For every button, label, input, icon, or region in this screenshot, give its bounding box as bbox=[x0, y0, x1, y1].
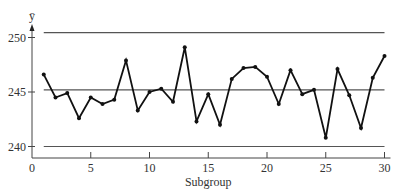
data-point bbox=[183, 45, 187, 49]
data-point bbox=[206, 92, 210, 96]
x-tick-label: 20 bbox=[261, 161, 273, 175]
data-point bbox=[136, 109, 140, 113]
data-point bbox=[300, 92, 304, 96]
y-axis-title: ȳ bbox=[29, 9, 35, 23]
data-point bbox=[42, 73, 46, 77]
data-point bbox=[54, 95, 58, 99]
x-tick-label: 30 bbox=[379, 161, 391, 175]
data-point bbox=[65, 91, 69, 95]
data-point bbox=[242, 66, 246, 70]
data-point bbox=[230, 77, 234, 81]
x-tick-label: 15 bbox=[202, 161, 214, 175]
data-point bbox=[218, 123, 222, 127]
y-axis-arrow-icon bbox=[30, 24, 35, 31]
data-point bbox=[89, 95, 93, 99]
y-tick-label: 250 bbox=[8, 31, 26, 45]
x-tick-label: 5 bbox=[88, 161, 94, 175]
y-tick-label: 240 bbox=[8, 140, 26, 154]
data-point bbox=[347, 93, 351, 97]
data-point bbox=[124, 58, 128, 62]
data-point bbox=[253, 65, 257, 69]
data-point bbox=[101, 102, 105, 106]
data-point bbox=[371, 76, 375, 80]
x-axis-title: Subgroup bbox=[185, 175, 232, 189]
control-chart: 240245250051015202530Subgroupȳ bbox=[0, 0, 399, 195]
data-point bbox=[195, 119, 199, 123]
data-point bbox=[171, 100, 175, 104]
data-point bbox=[289, 68, 293, 72]
x-tick-label: 10 bbox=[144, 161, 156, 175]
axes bbox=[28, 24, 391, 158]
data-point bbox=[159, 87, 163, 91]
x-tick-label: 25 bbox=[320, 161, 332, 175]
data-point bbox=[336, 67, 340, 71]
y-tick-label: 245 bbox=[8, 85, 26, 99]
data-point bbox=[277, 102, 281, 106]
data-point bbox=[77, 116, 81, 120]
data-point bbox=[383, 54, 387, 58]
x-tick-label: 0 bbox=[29, 161, 35, 175]
data-point bbox=[265, 75, 269, 79]
data-point bbox=[148, 90, 152, 94]
data-point bbox=[112, 98, 116, 102]
data-point bbox=[359, 126, 363, 130]
data-point bbox=[312, 88, 316, 92]
data-series bbox=[42, 45, 387, 139]
mean-line bbox=[44, 47, 385, 138]
data-point bbox=[324, 136, 328, 140]
